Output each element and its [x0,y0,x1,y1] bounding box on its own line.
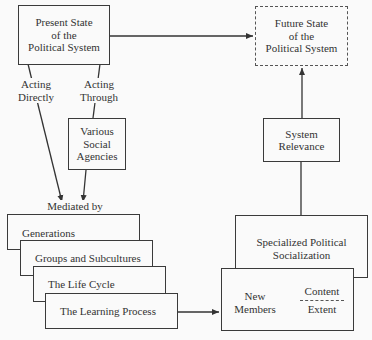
present-state-node: Present State of the Political System [18,5,110,65]
mediated-by-label: Mediated by [40,200,110,213]
divider [300,300,344,301]
content-extent: Content Extent [300,285,344,316]
learning-process-node: The Learning Process [45,293,178,329]
acting-directly-label: Acting Directly [14,78,58,103]
future-state-node: Future State of the Political System [255,6,348,66]
system-relevance-node: System Relevance [263,118,340,162]
new-members-node: New Members Content Extent [221,268,354,331]
acting-through-label: Acting Through [76,78,122,103]
new-members-label: New Members [232,290,278,315]
content-label: Content [300,285,344,298]
extent-label: Extent [300,303,344,316]
various-agencies-node: Various Social Agencies [68,118,126,170]
